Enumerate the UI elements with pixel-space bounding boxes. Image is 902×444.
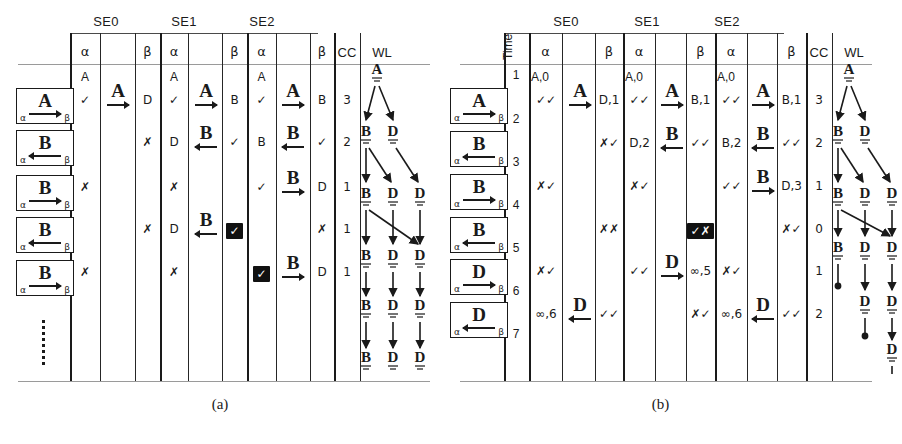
arrow-right-icon: [107, 101, 129, 108]
arrow-left-icon: [29, 152, 61, 159]
arrow-right-icon: [463, 110, 495, 117]
transmitted-message-token: A: [278, 82, 308, 112]
col-header-se2-beta: β: [310, 44, 334, 59]
cell-se1-beta: B,1: [686, 94, 715, 106]
svg-text:B: B: [833, 239, 843, 255]
highlighted-mark: ✓: [226, 223, 242, 239]
cell-se1-alpha: ✗✓: [624, 180, 655, 192]
cell-se2-alpha: ✓✓: [716, 94, 747, 106]
col-header-se1-beta: β: [686, 44, 715, 59]
cell-se0-beta: ✗✗: [595, 223, 623, 235]
svg-text:B: B: [361, 185, 371, 201]
arrow-right-icon: [282, 101, 304, 108]
rule-top: [70, 33, 318, 34]
transmitted-message-token: A: [191, 82, 221, 112]
token-letter: A: [748, 80, 778, 102]
arrow-right-icon: [463, 281, 495, 288]
arrow-right-icon: [463, 196, 495, 203]
col-header-se2-beta: β: [777, 44, 806, 59]
token-letter: A: [657, 80, 687, 102]
message-token-box: Aαβ: [16, 88, 74, 124]
grid-line-se0-a: [100, 33, 101, 381]
endpoint-beta-label: β: [64, 242, 70, 252]
arrow-left-icon: [463, 324, 495, 331]
svg-text:D: D: [860, 185, 871, 201]
cell-se2-alpha: ∞,6: [716, 308, 747, 320]
svg-text:B: B: [361, 349, 371, 365]
svg-text:B: B: [361, 247, 371, 263]
svg-text:A: A: [372, 62, 383, 77]
cell-se2-alpha: ✓: [247, 266, 276, 282]
cell-se2-beta: D: [310, 181, 334, 193]
cell-se2-beta: ✓✓: [777, 137, 806, 149]
grid-line-se0-end: [160, 33, 162, 381]
cell-se2-beta: B,1: [777, 94, 806, 106]
cell-se0-alpha: ✗✓: [530, 265, 562, 277]
transmitted-message-token: A: [657, 82, 687, 112]
caption-b: (b): [440, 396, 881, 413]
token-letter: B: [191, 209, 221, 231]
cell-se0-beta: D: [135, 94, 160, 106]
transmitted-message-token: B: [657, 125, 687, 155]
cell-se1-beta: ✓: [222, 223, 247, 239]
token-letter: B: [278, 252, 308, 274]
cell-se1-alpha: D: [160, 136, 188, 148]
wl-tree-a: A BD BDD BDD BDD BDD: [348, 62, 440, 374]
time-tick: 6: [509, 284, 523, 298]
token-letter: A: [565, 80, 595, 102]
continuation-dots: [42, 320, 45, 368]
col-header-se2-alpha: α: [247, 44, 276, 59]
endpoint-alpha-label: α: [454, 113, 460, 123]
message-letter: B: [451, 176, 507, 198]
cell-se2-beta: ✗✓: [777, 223, 806, 235]
arrow-right-icon: [29, 197, 61, 204]
cell-se2-alpha: ✓✓: [716, 180, 747, 192]
cell-se0-alpha: ✗: [70, 266, 100, 278]
cell-se0-beta: ✗: [135, 223, 160, 235]
init-se0-alpha: A: [70, 71, 100, 83]
endpoint-alpha-label: α: [454, 242, 460, 252]
transmitted-message-token: D: [748, 296, 778, 326]
endpoint-beta-label: β: [498, 284, 504, 294]
grid-line-se1-a: [655, 33, 656, 381]
message-letter: D: [451, 304, 507, 326]
arrow-right-icon: [661, 272, 683, 279]
col-header-se0-beta: β: [135, 44, 160, 59]
token-letter: B: [278, 167, 308, 189]
cell-se2-beta: D,3: [777, 180, 806, 192]
endpoint-alpha-label: α: [20, 200, 26, 210]
rule-bottom: [460, 381, 872, 382]
endpoint-beta-label: β: [64, 155, 70, 165]
cell-se1-beta: ✓: [222, 136, 247, 148]
grid-line-time-right: [529, 33, 531, 381]
grid-line-se1-end: [247, 33, 249, 381]
group-header-se1: SE1: [152, 14, 216, 29]
svg-text:D: D: [887, 293, 898, 309]
token-letter: B: [191, 122, 221, 144]
svg-text:D: D: [388, 349, 399, 365]
token-letter: D: [657, 251, 687, 273]
cell-se0-alpha: ✓✓: [530, 94, 562, 106]
svg-text:D: D: [887, 341, 898, 357]
endpoint-alpha-label: α: [454, 284, 460, 294]
col-header-wl: WL: [824, 45, 884, 60]
group-header-se0: SE0: [534, 14, 598, 29]
svg-text:D: D: [388, 297, 399, 313]
arrow-right-icon: [29, 282, 61, 289]
message-token-box: Bαβ: [16, 260, 74, 296]
cell-se1-beta: ∞,5: [686, 265, 715, 277]
cell-se2-alpha: B: [247, 136, 276, 148]
message-letter: B: [451, 219, 507, 241]
cell-se0-beta: ✗✓: [595, 137, 623, 149]
message-token-box: Bαβ: [16, 130, 74, 166]
time-tick: 3: [509, 155, 523, 169]
col-header-se1-alpha: α: [160, 44, 188, 59]
grid-line-se0-mid: [595, 33, 596, 381]
message-letter: B: [17, 219, 73, 241]
cell-se0-beta: ✓✓: [595, 308, 623, 320]
transmitted-message-token: B: [278, 124, 308, 154]
message-token-box: Dαβ: [450, 259, 508, 295]
endpoint-alpha-label: α: [20, 113, 26, 123]
message-letter: A: [451, 90, 507, 112]
